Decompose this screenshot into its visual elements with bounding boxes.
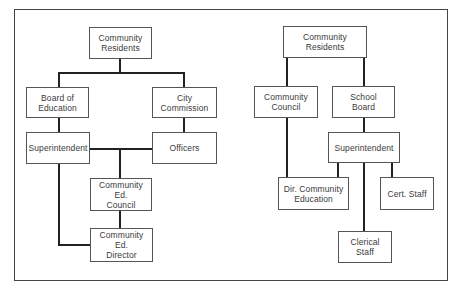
node-left-board-of-education: Board of Education (26, 87, 89, 118)
node-right-community-residents: Community Residents (283, 26, 367, 58)
node-right-community-council: Community Council (254, 86, 318, 118)
node-left-community-residents: Community Residents (89, 27, 152, 59)
node-left-superintendent: Superintendent (26, 132, 90, 164)
node-left-community-ed-council: Community Ed. Council (90, 178, 152, 211)
node-left-community-ed-director: Community Ed. Director (90, 228, 153, 262)
node-left-officers: Officers (152, 132, 217, 164)
node-right-cert-staff: Cert. Staff (380, 177, 434, 210)
node-right-school-board: School Board (332, 86, 395, 118)
node-right-superintendent: Superintendent (328, 132, 400, 163)
connector-superintendent-director (59, 164, 90, 245)
node-right-clerical-staff: Clerical Staff (338, 231, 392, 263)
node-left-city-commission: City Commission (152, 87, 217, 118)
node-right-dir-community-education: Dir. Community Education (278, 177, 349, 210)
connector-residents-branch (59, 73, 184, 87)
